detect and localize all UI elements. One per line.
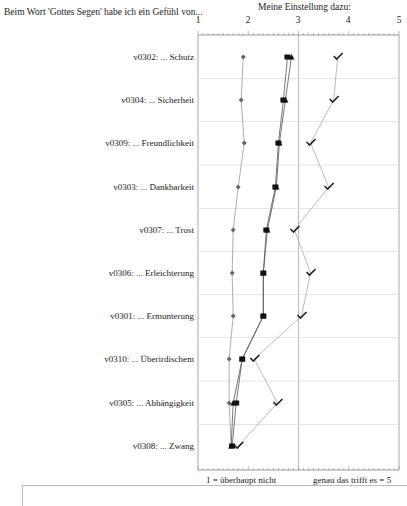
axis-low-label: 1 = überhaupt nicht	[206, 475, 276, 485]
footer-box	[22, 485, 407, 506]
check-marker-icon	[273, 399, 282, 405]
diamond-marker-icon	[230, 271, 235, 276]
axis-high-label: genau das trifft es = 5	[313, 475, 391, 485]
diamond-marker-icon	[239, 98, 244, 103]
diamond-marker-icon	[236, 185, 241, 190]
check-marker-icon	[307, 269, 316, 275]
diamond-marker-icon	[231, 314, 236, 319]
diamond-marker-icon	[231, 228, 236, 233]
diamond-marker-icon	[227, 357, 232, 362]
diamond-marker-icon	[242, 141, 247, 146]
diamond-marker-icon	[241, 55, 246, 60]
check-marker-icon	[334, 53, 343, 59]
check-marker-icon	[250, 355, 259, 361]
check-marker-icon	[325, 183, 334, 189]
